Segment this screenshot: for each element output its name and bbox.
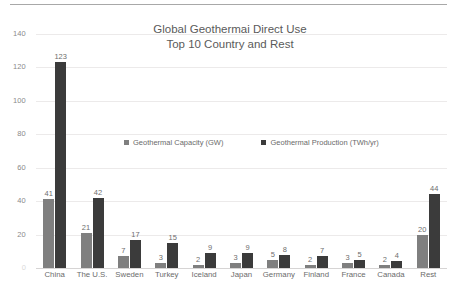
- bar-chart: Global Geothermai Direct Use Top 10 Coun…: [0, 12, 453, 280]
- y-tick-label-140: 140: [0, 30, 26, 38]
- x-label-germany: Germany: [260, 270, 297, 280]
- bar-france-production[interactable]: 5: [354, 260, 365, 268]
- bar-germany-capacity[interactable]: 5: [267, 260, 278, 268]
- bar-china-production[interactable]: 123: [55, 62, 66, 268]
- bar-slot: 41: [43, 34, 54, 268]
- x-axis-category-labels: ChinaThe U.S.SwedenTurkeyIcelandJapanGer…: [36, 270, 447, 280]
- bar-value-label: 2: [196, 256, 200, 264]
- bar-slot: 42: [93, 34, 104, 268]
- bar-slot: 9: [205, 34, 216, 268]
- x-label-china: China: [36, 270, 73, 280]
- bar-turkey-capacity[interactable]: 3: [155, 263, 166, 268]
- bar-slot: 2: [379, 34, 390, 268]
- bar-slot: 7: [118, 34, 129, 268]
- bar-slot: 4: [391, 34, 402, 268]
- bar-finland-production[interactable]: 7: [317, 256, 328, 268]
- bar-slot: 44: [429, 34, 440, 268]
- bar-the-u-s--capacity[interactable]: 21: [81, 233, 92, 268]
- legend-item-production[interactable]: Geothermal Production (TWh/yr): [261, 138, 378, 147]
- bar-slot: 21: [81, 34, 92, 268]
- bar-japan-capacity[interactable]: 3: [230, 263, 241, 268]
- bar-value-label: 4: [395, 252, 399, 260]
- bar-value-label: 44: [430, 185, 438, 193]
- bar-value-label: 123: [54, 53, 67, 61]
- bar-group: 35: [335, 34, 372, 268]
- bar-group: 2044: [410, 34, 447, 268]
- x-label-iceland: Iceland: [185, 270, 222, 280]
- plot-area: 140120100806040200 411232142717315293958…: [36, 34, 447, 268]
- bar-turkey-production[interactable]: 15: [167, 243, 178, 268]
- bar-slot: 20: [417, 34, 428, 268]
- bar-value-label: 17: [131, 231, 139, 239]
- gridline-0: [36, 268, 447, 269]
- bar-group: 2142: [73, 34, 110, 268]
- legend-swatch-icon: [124, 140, 129, 145]
- y-tick-label-100: 100: [0, 97, 26, 105]
- bar-slot: 15: [167, 34, 178, 268]
- legend-label: Geothermal Production (TWh/yr): [270, 138, 378, 147]
- bar-slot: 3: [230, 34, 241, 268]
- bar-slot: 3: [155, 34, 166, 268]
- bar-slot: 5: [267, 34, 278, 268]
- bar-china-capacity[interactable]: 41: [43, 199, 54, 268]
- x-label-france: France: [335, 270, 372, 280]
- chart-legend: Geothermal Capacity (GW)Geothermal Produ…: [124, 138, 414, 147]
- y-tick-label-60: 60: [0, 164, 26, 172]
- y-tick-label-20: 20: [0, 231, 26, 239]
- bar-value-label: 5: [271, 251, 275, 259]
- bar-canada-capacity[interactable]: 2: [379, 265, 390, 268]
- bar-value-label: 41: [45, 190, 53, 198]
- bar-iceland-production[interactable]: 9: [205, 253, 216, 268]
- bar-germany-production[interactable]: 8: [279, 255, 290, 268]
- bar-groups: 4112321427173152939582735242044: [36, 34, 447, 268]
- bar-slot: 2: [305, 34, 316, 268]
- bar-value-label: 8: [283, 246, 287, 254]
- legend-label: Geothermal Capacity (GW): [133, 138, 223, 147]
- x-label-rest: Rest: [410, 270, 447, 280]
- bar-group: 717: [111, 34, 148, 268]
- bar-group: 41123: [36, 34, 73, 268]
- bar-japan-production[interactable]: 9: [242, 253, 253, 268]
- bar-sweden-production[interactable]: 17: [130, 240, 141, 268]
- x-label-finland: Finland: [298, 270, 335, 280]
- bar-value-label: 2: [308, 256, 312, 264]
- bar-slot: 8: [279, 34, 290, 268]
- bar-slot: 17: [130, 34, 141, 268]
- bar-canada-production[interactable]: 4: [391, 261, 402, 268]
- bar-value-label: 3: [233, 254, 237, 262]
- x-label-the-u-s-: The U.S.: [73, 270, 110, 280]
- legend-swatch-icon: [261, 140, 266, 145]
- bar-value-label: 21: [82, 224, 90, 232]
- bar-value-label: 20: [418, 226, 426, 234]
- bar-value-label: 9: [208, 244, 212, 252]
- bar-sweden-capacity[interactable]: 7: [118, 256, 129, 268]
- bar-slot: 2: [193, 34, 204, 268]
- chart-page: Global Geothermai Direct Use Top 10 Coun…: [0, 0, 453, 291]
- bar-slot: 7: [317, 34, 328, 268]
- top-divider-rule: [10, 4, 447, 5]
- bar-group: 315: [148, 34, 185, 268]
- bar-the-u-s--production[interactable]: 42: [93, 198, 104, 268]
- bar-group: 39: [223, 34, 260, 268]
- y-tick-label-40: 40: [0, 197, 26, 205]
- bar-iceland-capacity[interactable]: 2: [193, 265, 204, 268]
- bar-value-label: 2: [383, 256, 387, 264]
- legend-item-capacity[interactable]: Geothermal Capacity (GW): [124, 138, 223, 147]
- bar-slot: 9: [242, 34, 253, 268]
- bar-value-label: 7: [320, 247, 324, 255]
- bar-value-label: 7: [121, 247, 125, 255]
- bar-finland-capacity[interactable]: 2: [305, 265, 316, 268]
- y-tick-label-120: 120: [0, 63, 26, 71]
- x-label-sweden: Sweden: [111, 270, 148, 280]
- bar-value-label: 15: [169, 234, 177, 242]
- bar-value-label: 3: [345, 254, 349, 262]
- y-tick-label-80: 80: [0, 130, 26, 138]
- bar-france-capacity[interactable]: 3: [342, 263, 353, 268]
- bar-slot: 5: [354, 34, 365, 268]
- bar-rest-capacity[interactable]: 20: [417, 235, 428, 268]
- bar-group: 24: [372, 34, 409, 268]
- bar-rest-production[interactable]: 44: [429, 194, 440, 268]
- bar-value-label: 3: [159, 254, 163, 262]
- x-label-canada: Canada: [372, 270, 409, 280]
- bar-value-label: 5: [357, 251, 361, 259]
